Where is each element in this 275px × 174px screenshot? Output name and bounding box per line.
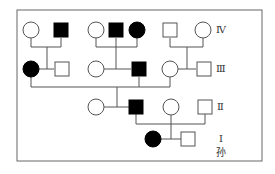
unaffected-female-iv-3 bbox=[88, 22, 104, 38]
unaffected-female-ii-3 bbox=[163, 99, 179, 115]
unaffected-male-ii-4 bbox=[198, 100, 212, 114]
unaffected-male-iv-6 bbox=[163, 23, 177, 37]
unaffected-female-iii-3 bbox=[88, 61, 104, 77]
affected-male-ii-2 bbox=[129, 100, 143, 114]
affected-female-iii-1 bbox=[23, 61, 39, 77]
affected-female-iv-5 bbox=[129, 22, 145, 38]
relationship-lines bbox=[31, 38, 205, 139]
individuals bbox=[23, 22, 212, 147]
unaffected-female-iv-7 bbox=[195, 22, 211, 38]
generation-label: Ⅲ bbox=[216, 64, 226, 74]
generation-label: Ⅱ bbox=[217, 102, 224, 112]
affected-male-iv-2 bbox=[54, 23, 68, 37]
generation-label: 孙 bbox=[216, 148, 226, 158]
unaffected-female-ii-1 bbox=[88, 99, 104, 115]
unaffected-male-iii-2 bbox=[55, 62, 69, 76]
generation-label: Ⅰ bbox=[219, 134, 223, 144]
unaffected-female-iii-5 bbox=[162, 61, 178, 77]
unaffected-female-iv-1 bbox=[23, 22, 39, 38]
affected-female-i-1 bbox=[145, 131, 161, 147]
pedigree-chart bbox=[0, 0, 275, 174]
unaffected-male-i-2 bbox=[181, 132, 195, 146]
affected-male-iii-4 bbox=[132, 62, 146, 76]
unaffected-male-iii-6 bbox=[197, 62, 211, 76]
generation-label: Ⅳ bbox=[216, 25, 226, 35]
affected-male-iv-4 bbox=[109, 23, 123, 37]
